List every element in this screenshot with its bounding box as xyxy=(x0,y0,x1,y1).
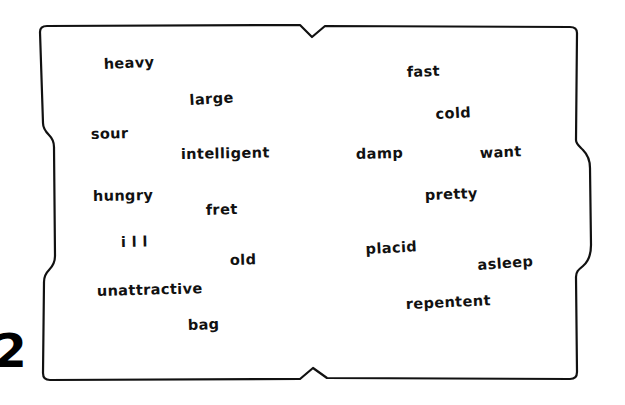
word-label: placid xyxy=(365,239,417,256)
exercise-number: 2 xyxy=(0,327,26,374)
word-label: damp xyxy=(356,146,404,162)
word-label: intelligent xyxy=(181,145,270,161)
word-label: fret xyxy=(205,202,237,218)
word-label: fast xyxy=(406,64,440,80)
word-label: i l l xyxy=(121,235,148,250)
word-label: heavy xyxy=(103,55,154,72)
word-label: unattractive xyxy=(97,281,203,298)
word-label: repentent xyxy=(405,293,491,311)
word-label: hungry xyxy=(93,188,154,204)
word-label: large xyxy=(189,90,234,107)
word-label: want xyxy=(479,144,522,160)
word-label: old xyxy=(230,252,257,267)
word-label: cold xyxy=(435,105,471,121)
word-label: pretty xyxy=(424,186,478,202)
word-label: sour xyxy=(91,126,129,141)
worksheet-page: 2 heavylargesourintelligenthungryfreti l… xyxy=(0,0,625,405)
word-label: bag xyxy=(187,317,219,333)
